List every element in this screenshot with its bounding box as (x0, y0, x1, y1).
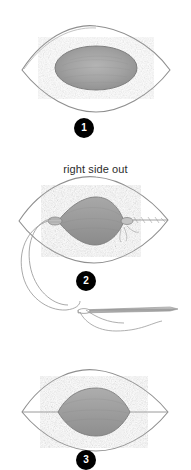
step-number-badge: 1 (74, 118, 94, 138)
lens-shape-with-center-seam-and-shaded-center (0, 355, 191, 459)
gathered-lens-with-needle-and-thread (0, 155, 191, 355)
shaded-oval (55, 46, 137, 90)
step-3: 3 (0, 355, 191, 459)
sewing-needle-icon (78, 307, 178, 313)
gather-knot-right (121, 218, 133, 225)
step-1: 1 (0, 0, 191, 155)
thread-through-eye (80, 310, 162, 331)
step-number-badge: 2 (76, 271, 96, 291)
step-number-badge: 3 (76, 450, 96, 470)
step-2: right side out (0, 155, 191, 355)
lens-shape-with-shaded-oval (0, 0, 191, 155)
needle-eye-icon (78, 309, 90, 314)
gather-knot-left (48, 217, 62, 225)
